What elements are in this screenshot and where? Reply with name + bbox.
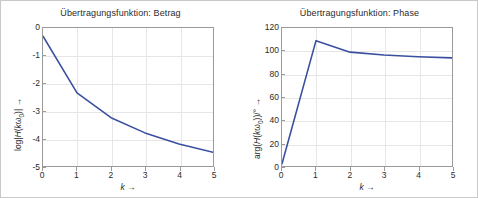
x-tick-label: 1 [74, 170, 79, 180]
x-tick-mark [281, 167, 282, 171]
x-tick-mark [350, 167, 351, 171]
data-series-line [282, 28, 452, 166]
y-tick-mark [42, 55, 46, 56]
x-tick-label: 3 [382, 170, 387, 180]
x-tick-mark [214, 167, 215, 171]
x-tick-label: 1 [313, 170, 318, 180]
x-tick-mark [384, 167, 385, 171]
x-tick-label: 5 [451, 170, 456, 180]
y-tick-label: 40 [270, 115, 279, 125]
y-tick-mark [42, 111, 46, 112]
x-tick-mark [76, 167, 77, 171]
y-tick-label: 60 [270, 92, 279, 102]
y-tick-label: 100 [265, 45, 279, 55]
y-tick-label: -1 [32, 50, 40, 60]
x-tick-label: 3 [143, 170, 148, 180]
y-tick-mark [281, 74, 285, 75]
x-tick-label: 0 [40, 170, 45, 180]
y-tick-mark [42, 139, 46, 140]
chart-phase: Übertragungsfunktion: Phase 020406080100… [240, 1, 478, 198]
y-tick-mark [281, 97, 285, 98]
y-tick-label: -2 [32, 78, 40, 88]
y-tick-label: 20 [270, 139, 279, 149]
x-tick-mark [111, 167, 112, 171]
x-tick-label: 5 [212, 170, 217, 180]
x-tick-label: 2 [108, 170, 113, 180]
y-tick-mark [281, 27, 285, 28]
y-axis-title-phase: arg(H(kω0))/° → [252, 98, 264, 159]
x-tick-label: 4 [177, 170, 182, 180]
y-tick-label: -3 [32, 106, 40, 116]
x-axis-title-phase: k → [281, 182, 453, 192]
y-tick-mark [281, 120, 285, 121]
x-tick-mark [315, 167, 316, 171]
plot-area-phase [281, 27, 453, 167]
x-tick-mark [42, 167, 43, 171]
y-tick-mark [281, 50, 285, 51]
x-axis-title-betrag: k → [42, 182, 214, 192]
x-tick-label: 4 [416, 170, 421, 180]
figure-container: Übertragungsfunktion: Betrag 0-1-2-3-4-5… [0, 0, 478, 198]
y-tick-mark [281, 144, 285, 145]
y-tick-mark [42, 27, 46, 28]
plot-area-betrag [42, 27, 214, 167]
y-tick-mark [42, 83, 46, 84]
x-tick-mark [453, 167, 454, 171]
x-tick-mark [180, 167, 181, 171]
y-axis-title-betrag: log|H(kω0)| → [13, 98, 25, 151]
x-tick-mark [419, 167, 420, 171]
y-tick-label: -4 [32, 134, 40, 144]
y-tick-label: 120 [265, 22, 279, 32]
data-series-line [43, 28, 213, 166]
chart-betrag: Übertragungsfunktion: Betrag 0-1-2-3-4-5… [1, 1, 240, 198]
y-tick-label: 0 [35, 22, 40, 32]
x-tick-label: 2 [347, 170, 352, 180]
x-tick-label: 0 [279, 170, 284, 180]
y-tick-label: 80 [270, 69, 279, 79]
x-tick-mark [145, 167, 146, 171]
